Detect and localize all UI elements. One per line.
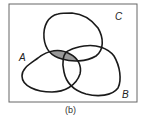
set-a-label: A — [19, 53, 26, 63]
venn-diagram-figure: A B C (b) — [0, 0, 141, 120]
set-b-label: B — [122, 90, 129, 100]
set-b-curve — [63, 45, 120, 95]
set-c-label: C — [115, 12, 122, 22]
figure-caption: (b) — [0, 106, 141, 115]
set-c-curve — [44, 13, 102, 61]
